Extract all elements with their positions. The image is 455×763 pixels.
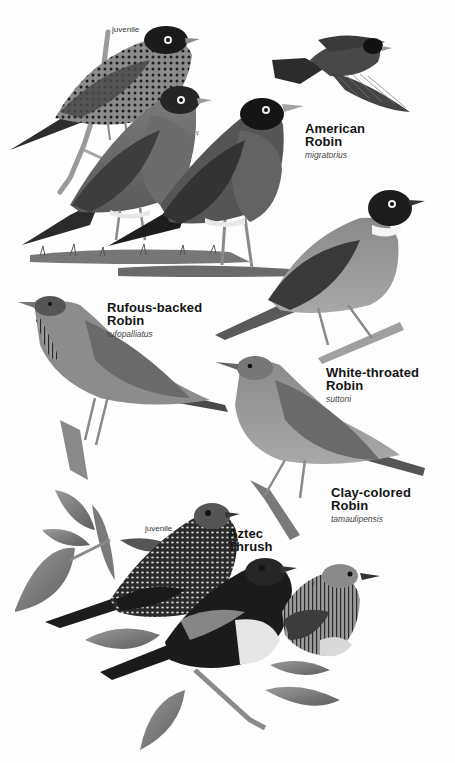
american-robin-juvenile-tag: juvenile: [112, 25, 139, 34]
aztec-thrush-female-symbol: ♀: [310, 578, 317, 588]
aztec-thrush-male-symbol: ♂: [226, 566, 233, 576]
scientific-name: migratorius: [305, 151, 365, 160]
field-guide-plate: juvenile ♀ ♂ American Robin migratorius …: [0, 0, 455, 763]
common-name: Robin: [305, 135, 365, 148]
common-name: Robin: [107, 314, 202, 327]
scientific-name: suttoni: [326, 395, 419, 404]
aztec-thrush-illustration: [15, 490, 380, 750]
american-robin-male-symbol: ♂: [238, 118, 245, 128]
species-label-aztec-thrush: Aztec Thrush: [228, 527, 273, 553]
common-name: Thrush: [228, 540, 273, 553]
aztec-thrush-juvenile-tag: juvenile: [145, 524, 172, 533]
scientific-name: rufopalliatus: [107, 330, 202, 339]
scientific-name: tamaulipensis: [331, 515, 411, 524]
species-label-white-throated-robin: White-throated Robin suttoni: [326, 366, 419, 404]
common-name: Robin: [331, 499, 411, 512]
american-robin-female-symbol: ♀: [194, 128, 201, 138]
species-label-clay-colored-robin: Clay-colored Robin tamaulipensis: [331, 486, 411, 524]
species-label-american-robin: American Robin migratorius: [305, 122, 365, 160]
common-name: Robin: [326, 379, 419, 392]
species-label-rufous-backed-robin: Rufous-backed Robin rufopalliatus: [107, 301, 202, 339]
